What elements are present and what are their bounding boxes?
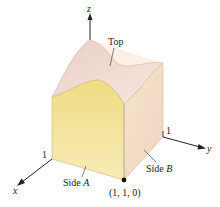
side-a-word: Side (63, 177, 83, 188)
z-axis-label: z (86, 3, 91, 14)
side-b-word: Side (146, 163, 166, 174)
side-b-label: Side B (146, 163, 172, 174)
y-axis (163, 137, 206, 150)
x-tick-label: 1 (42, 149, 47, 160)
corner-point-marker (122, 178, 127, 183)
y-axis-label: y (206, 143, 212, 154)
side-a-letter: A (82, 177, 90, 188)
z-axis (88, 13, 93, 40)
x-axis (17, 159, 52, 186)
corner-point-label: (1, 1, 0) (109, 187, 141, 199)
side-a-face (52, 80, 124, 180)
side-a-label: Side A (63, 177, 90, 188)
solid-region-diagram: z y x 1 1 Top Side A Side B (1, 1, 0) (0, 0, 220, 207)
y-tick-label: 1 (166, 125, 171, 136)
side-b-letter: B (166, 163, 172, 174)
top-label: Top (108, 36, 123, 47)
x-axis-label: x (12, 185, 18, 196)
